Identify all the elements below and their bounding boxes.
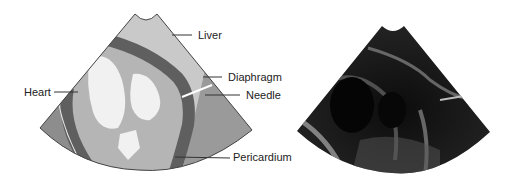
label-liver: Liver [198, 30, 222, 41]
label-diaphragm: Diaphragm [228, 72, 282, 83]
label-pericardium: Pericardium [233, 152, 292, 163]
label-heart: Heart [24, 87, 51, 98]
label-needle: Needle [246, 90, 281, 101]
ultrasound-image [280, 0, 515, 181]
